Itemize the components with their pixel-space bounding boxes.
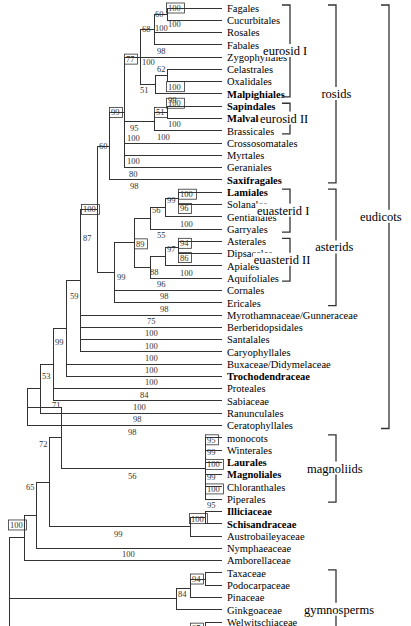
support-value: 65 bbox=[26, 482, 35, 492]
leaf-label: Nymphaeaceae bbox=[227, 543, 291, 554]
leaf-label: Myrothamnaceae/Gunneraceae bbox=[227, 310, 358, 321]
support-value: 84 bbox=[178, 589, 187, 599]
support-value: 95 bbox=[207, 500, 216, 510]
leaf-label: Proteales bbox=[227, 383, 266, 394]
support-value: 99 bbox=[117, 272, 126, 282]
leaf-label: Ginkgoaceae bbox=[227, 605, 282, 616]
support-value: 86 bbox=[180, 253, 189, 263]
support-value: 100 bbox=[168, 19, 181, 29]
support-value: 99 bbox=[114, 529, 123, 539]
support-value: 55 bbox=[157, 230, 166, 240]
leaf-label: Pinaceae bbox=[227, 592, 265, 603]
support-value: 98 bbox=[160, 304, 169, 314]
support-value: 100 bbox=[180, 189, 193, 199]
group-label: eudicots bbox=[360, 210, 402, 224]
support-value: 100 bbox=[168, 82, 181, 92]
leaf-label: Laurales bbox=[227, 457, 267, 468]
support-value: 100 bbox=[180, 219, 193, 229]
support-value: 100 bbox=[157, 132, 170, 142]
leaf-label: Ericales bbox=[227, 298, 261, 309]
leaf-label: Asterales bbox=[227, 236, 266, 247]
leaf-label: Magnoliales bbox=[227, 469, 281, 480]
group-label: euasterid I bbox=[257, 204, 309, 218]
support-value: 80 bbox=[129, 169, 138, 179]
support-value: 100 bbox=[168, 119, 181, 129]
leaf-label: Cornales bbox=[227, 285, 264, 296]
group-label: asterids bbox=[315, 240, 353, 254]
support-value: 100 bbox=[145, 377, 158, 387]
leaf-label: Crossosomatales bbox=[227, 138, 298, 149]
leaf-label: monocots bbox=[227, 433, 268, 444]
leaf-label: Lamiales bbox=[227, 187, 268, 198]
support-value: 56 bbox=[128, 471, 137, 481]
support-value: 87 bbox=[83, 233, 92, 243]
group-bracket bbox=[328, 570, 336, 626]
support-value: 100 bbox=[207, 484, 220, 494]
support-value: 89 bbox=[136, 239, 145, 249]
leaf-label: Fagales bbox=[227, 3, 259, 14]
support-value: 75 bbox=[147, 316, 156, 326]
leaf-label: Austrobaileyaceae bbox=[227, 531, 305, 542]
leaf-label: Chloranthales bbox=[227, 482, 285, 493]
support-value: 62 bbox=[157, 64, 166, 74]
leaf-label: Welwitschiaceae bbox=[227, 617, 298, 626]
leaf-label: Fabales bbox=[227, 40, 259, 51]
leaf-label: Trochodendraceae bbox=[227, 371, 310, 382]
group-label: eurosid I bbox=[263, 44, 307, 58]
support-value: 88 bbox=[150, 267, 159, 277]
support-value: 100 bbox=[122, 549, 135, 559]
group-label: gymnosperms bbox=[304, 603, 374, 617]
support-value: 77 bbox=[126, 54, 135, 64]
support-value: 98 bbox=[130, 181, 139, 191]
support-value: 100 bbox=[127, 133, 140, 143]
phylogenetic-tree: 1001006010098687710062100519910051100951… bbox=[0, 0, 411, 626]
support-value: 100 bbox=[155, 23, 168, 33]
group-label: euasterid II bbox=[254, 253, 311, 267]
support-value: 71 bbox=[52, 400, 61, 410]
leaf-label: Santalales bbox=[227, 334, 270, 345]
support-value: 100 bbox=[133, 402, 146, 412]
support-value: 59 bbox=[70, 291, 79, 301]
support-value: 100 bbox=[180, 268, 193, 278]
support-value: 98 bbox=[160, 291, 169, 301]
leaf-label: Berberidopsidales bbox=[227, 322, 303, 333]
support-value: 98 bbox=[128, 427, 137, 437]
leaf-label: Brassicales bbox=[227, 126, 274, 137]
leaf-label: Piperales bbox=[227, 494, 266, 505]
support-value: 98 bbox=[133, 414, 142, 424]
group-label: rosids bbox=[321, 87, 351, 101]
group-label: eurosid II bbox=[260, 112, 308, 126]
support-value: 100 bbox=[145, 328, 158, 338]
leaf-label: Illiciaceae bbox=[227, 506, 272, 517]
support-value: 94 bbox=[180, 238, 189, 248]
support-value: 99 bbox=[55, 337, 64, 347]
support-value: 100 bbox=[83, 204, 96, 214]
support-value: 60 bbox=[99, 141, 108, 151]
leaf-label: Saxifragales bbox=[227, 175, 282, 186]
support-value: 100 bbox=[168, 3, 181, 13]
support-value: 68 bbox=[142, 24, 151, 34]
leaf-label: Geraniales bbox=[227, 162, 272, 173]
support-value: 99 bbox=[111, 107, 120, 117]
leaf-label: Podocarpaceae bbox=[227, 580, 290, 591]
support-value: 96 bbox=[157, 279, 166, 289]
support-value: 72 bbox=[39, 439, 48, 449]
leaf-label: Rosales bbox=[227, 27, 260, 38]
support-value: 98 bbox=[157, 46, 166, 56]
leaf-label: Schisandraceae bbox=[227, 519, 297, 530]
support-value: 100 bbox=[127, 156, 140, 166]
support-value: 51 bbox=[156, 107, 165, 117]
support-value: 100 bbox=[10, 520, 23, 530]
support-value: 95 bbox=[130, 123, 139, 133]
support-value: 51 bbox=[140, 85, 149, 95]
support-value: 99 bbox=[207, 447, 216, 457]
group-label: magnoliids bbox=[307, 462, 363, 476]
support-value: 100 bbox=[145, 365, 158, 375]
leaf-label: Aquifoliales bbox=[227, 273, 279, 284]
leaf-label: Malpighiales bbox=[227, 89, 285, 100]
leaf-label: Taxaceae bbox=[227, 568, 266, 579]
support-value: 97 bbox=[167, 244, 176, 254]
leaf-label: Ceratophyllales bbox=[227, 420, 293, 431]
leaf-label: Cucurbitales bbox=[227, 15, 280, 26]
support-value: 60 bbox=[155, 9, 164, 19]
